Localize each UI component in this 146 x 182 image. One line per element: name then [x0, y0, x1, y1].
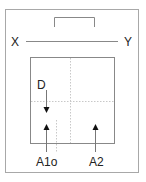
label-a2: A2 [89, 155, 104, 169]
inner-square [31, 58, 115, 144]
label-x: X [11, 35, 19, 49]
label-y: Y [124, 35, 132, 49]
up-arrow-icon [93, 124, 99, 130]
outer-frame [6, 10, 139, 173]
label-a1o: A1o [36, 155, 58, 169]
top-bracket [55, 18, 95, 28]
label-d: D [37, 78, 46, 92]
down-arrow-icon [44, 107, 50, 113]
diagram-canvas: X Y D A1o A2 [0, 0, 146, 182]
up-arrow-icon [44, 124, 50, 130]
